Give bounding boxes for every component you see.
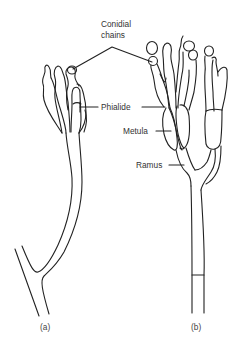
conidial-chains-leader (73, 47, 152, 69)
label-ramus: Ramus (136, 160, 162, 170)
caption-a: (a) (40, 322, 50, 332)
figure-b-stalk (176, 146, 221, 313)
label-conidial-chains-line1: Conidial (101, 19, 131, 29)
label-conidial-chains-line2: chains (101, 30, 125, 40)
label-metula: Metula (123, 126, 148, 136)
figure-b-metulae (163, 105, 222, 150)
conidiophore-diagram: (a) (0, 0, 235, 353)
caption-b: (b) (191, 322, 201, 332)
diagram-canvas: (a) (0, 0, 235, 353)
figure-b-conidiophore: (b) (147, 36, 228, 332)
figure-b-phialides (147, 36, 228, 111)
figure-a-phialides (43, 65, 87, 133)
label-phialide: Phialide (101, 102, 131, 112)
figure-a-stalk (15, 133, 82, 316)
figure-a-conidiophore: (a) (15, 65, 98, 332)
